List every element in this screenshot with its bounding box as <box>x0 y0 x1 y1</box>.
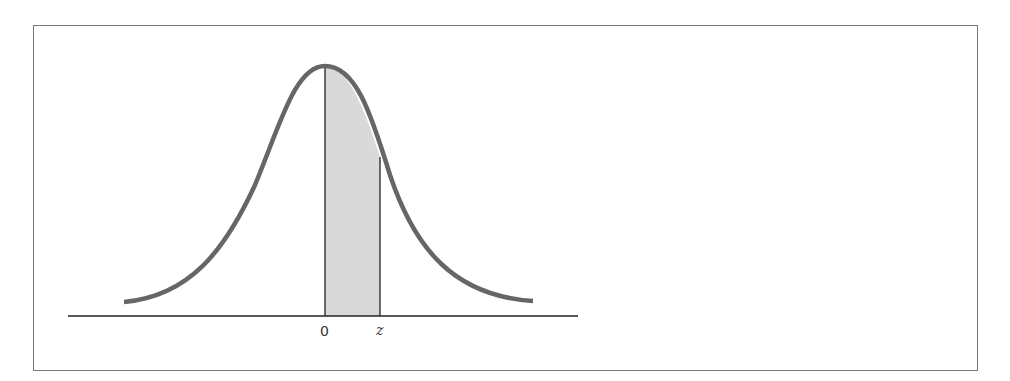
normal-curve-figure <box>0 0 1010 381</box>
tick-label-zero: 0 <box>320 323 329 339</box>
tick-label-z: z <box>376 322 383 338</box>
shaded-area <box>325 66 380 316</box>
